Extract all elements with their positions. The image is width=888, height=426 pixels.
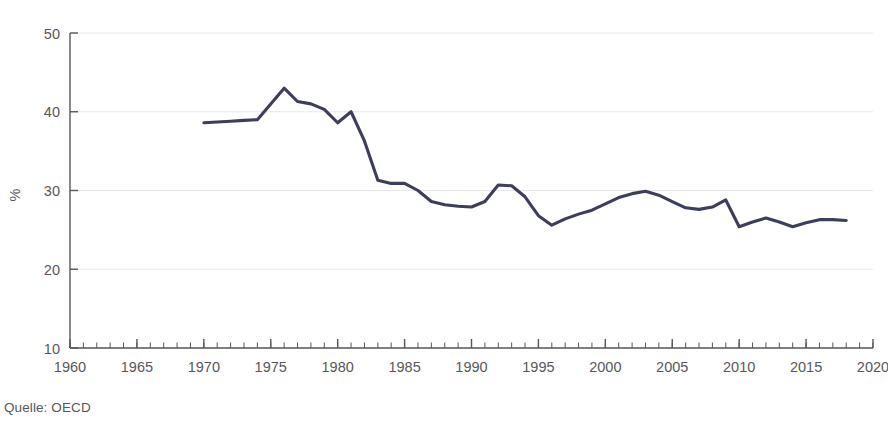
x-tick-label: 2000 [589,359,621,375]
y-tick-label: 30 [44,183,60,199]
x-tick-label: 2010 [723,359,755,375]
gridlines [70,33,873,348]
y-tick-label: 10 [44,341,60,357]
y-tick-label: 20 [44,262,60,278]
x-axis-tick-labels: 1960196519701975198019851990199520002005… [54,359,888,375]
x-tick-label: 1995 [522,359,554,375]
x-tick-label: 1990 [455,359,487,375]
x-tick-label: 2020 [857,359,888,375]
y-tick-label: 50 [44,26,60,42]
data-series-line [204,88,846,227]
chart-figure: 1020304050 19601965197019751980198519901… [0,0,888,426]
y-axis-tick-labels: 1020304050 [44,26,60,357]
x-tick-label: 1975 [255,359,287,375]
source-note: Quelle: OECD [4,400,91,415]
x-tick-label: 1960 [54,359,86,375]
y-tick-label: 40 [44,104,60,120]
line-chart-plot: 1020304050 19601965197019751980198519901… [0,0,888,400]
x-tick-label: 1965 [121,359,153,375]
x-tick-label: 1985 [388,359,420,375]
x-tick-label: 2015 [790,359,822,375]
x-tick-label: 1970 [188,359,220,375]
x-tick-label: 1980 [322,359,354,375]
x-tick-label: 2005 [656,359,688,375]
y-axis-title: % [7,188,23,201]
